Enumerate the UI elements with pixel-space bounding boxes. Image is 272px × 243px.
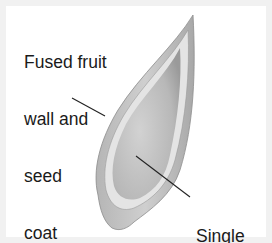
label-line: Fused fruit: [24, 53, 107, 72]
label-line: wall and: [24, 110, 107, 129]
label-single-seed: Single seed: [196, 189, 245, 243]
label-line: seed: [24, 167, 107, 186]
label-line: Single: [196, 227, 245, 243]
label-fruit-wall-seed-coat: Fused fruit wall and seed coat: [24, 15, 107, 243]
label-line: coat: [24, 224, 107, 243]
